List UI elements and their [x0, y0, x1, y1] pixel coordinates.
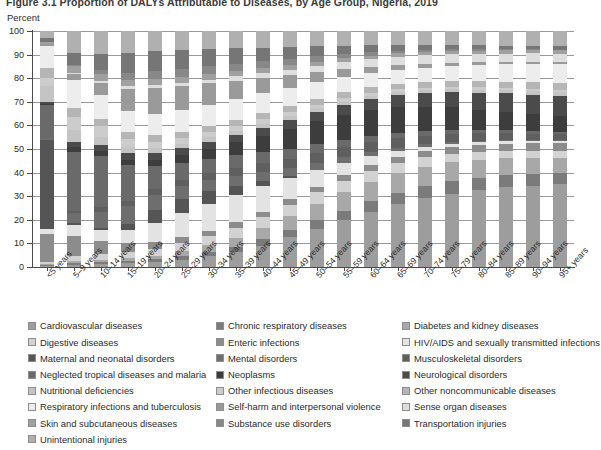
- bar-segment: [364, 59, 378, 67]
- bar-segment: [175, 148, 189, 155]
- legend-item[interactable]: Maternal and neonatal disorders: [28, 350, 218, 366]
- bar-40-44-years[interactable]: [256, 31, 270, 267]
- legend-swatch-icon: [402, 403, 410, 411]
- bar-segment: [229, 48, 243, 63]
- legend-item[interactable]: Cardiovascular diseases: [28, 318, 218, 334]
- bar-50-54-years[interactable]: [310, 31, 324, 267]
- legend-swatch-icon: [28, 403, 36, 411]
- bar-25-29-years[interactable]: [175, 31, 189, 267]
- bar-segment: [337, 211, 351, 221]
- legend-item[interactable]: Digestive diseases: [28, 334, 218, 350]
- bar-80-84-years[interactable]: [472, 31, 486, 267]
- bar-segment: [202, 105, 216, 127]
- bar-segment: [499, 112, 513, 130]
- bar-70-74-years[interactable]: [418, 31, 432, 267]
- bar-85-89-years[interactable]: [499, 31, 513, 267]
- legend-item[interactable]: Musculoskeletal disorders: [402, 350, 601, 366]
- bar-segment: [337, 192, 351, 210]
- legend-item[interactable]: Neoplasms: [216, 367, 402, 383]
- bar-75-79-years[interactable]: [445, 31, 459, 267]
- legend-item[interactable]: Neurological disorders: [402, 367, 601, 383]
- legend-item[interactable]: Substance use disorders: [216, 415, 402, 431]
- legend-item[interactable]: Diabetes and kidney diseases: [402, 318, 601, 334]
- legend-item-label: Substance use disorders: [228, 419, 331, 428]
- bar-segment: [148, 135, 162, 142]
- bar-segment: [364, 182, 378, 201]
- legend-item[interactable]: Skin and subcutaneous diseases: [28, 415, 218, 431]
- bar-segment: [229, 186, 243, 195]
- bar-segment: [202, 204, 216, 231]
- bar-45-49-years[interactable]: [283, 31, 297, 267]
- bar-segment: [94, 54, 108, 71]
- bar-20-24-years[interactable]: [148, 31, 162, 267]
- bar-10-14-years[interactable]: [94, 31, 108, 267]
- bar-segment: [229, 155, 243, 167]
- legend-item[interactable]: Unintentional injuries: [28, 431, 218, 447]
- bar-segment: [391, 107, 405, 133]
- bar-segment: [148, 31, 162, 51]
- bar-segment: [202, 149, 216, 159]
- gridline-40: [33, 173, 574, 174]
- legend-item[interactable]: Neglected tropical diseases and malaria: [28, 367, 218, 383]
- y-tick-mark-10: [27, 243, 32, 244]
- bar-segment: [94, 95, 108, 119]
- legend-item[interactable]: Nutritional deficiencies: [28, 383, 218, 399]
- bar-15-19-years[interactable]: [121, 31, 135, 267]
- bar-segment: [283, 31, 297, 47]
- bar-segment: [310, 220, 324, 229]
- legend-item[interactable]: Other noncommunicable diseases: [402, 383, 601, 399]
- bar-55-59-years[interactable]: [337, 31, 351, 267]
- legend-item[interactable]: Respiratory infections and tuberculosis: [28, 399, 218, 415]
- bar-segment: [499, 54, 513, 63]
- bar-segment: [472, 93, 486, 110]
- y-tick-mark-20: [27, 220, 32, 221]
- bar-30-34-years[interactable]: [202, 31, 216, 267]
- legend-item[interactable]: Sense organ diseases: [402, 399, 601, 415]
- bar-35-39-years[interactable]: [229, 31, 243, 267]
- bar-segment: [391, 138, 405, 147]
- y-tick-label-20: 20: [0, 215, 24, 225]
- bar-60-64-years[interactable]: [364, 31, 378, 267]
- legend-item-label: Digestive diseases: [40, 338, 118, 347]
- bar-segment: [526, 31, 540, 46]
- bar-segment: [553, 116, 567, 131]
- y-tick-mark-60: [27, 125, 32, 126]
- legend-item-label: Respiratory infections and tuberculosis: [40, 402, 201, 411]
- legend-item[interactable]: Mental disorders: [216, 350, 402, 366]
- gridline-90: [33, 55, 574, 56]
- legend-item[interactable]: Enteric infections: [216, 334, 402, 350]
- bar-90-94-years[interactable]: [526, 31, 540, 267]
- y-tick-label-40: 40: [0, 168, 24, 178]
- bar-65-69-years[interactable]: [391, 31, 405, 267]
- bar-segment: [94, 137, 108, 145]
- bar-segment: [526, 143, 540, 150]
- bar-segment: [283, 230, 297, 237]
- bar-segment: [364, 156, 378, 165]
- legend-swatch-icon: [28, 338, 36, 346]
- legend-item[interactable]: Transportation injuries: [402, 415, 601, 431]
- legend-item[interactable]: HIV/AIDS and sexually transmitted infect…: [402, 334, 601, 350]
- bar-segment: [418, 107, 432, 132]
- bar-segment: [67, 80, 81, 108]
- bar-segment: [526, 174, 540, 186]
- legend-item[interactable]: Other infectious diseases: [216, 383, 402, 399]
- legend-swatch-icon: [28, 371, 36, 379]
- bar-segment: [40, 46, 54, 68]
- bar-segment: [202, 159, 216, 173]
- legend-item-label: Neurological disorders: [414, 370, 507, 379]
- bar-segment: [283, 120, 297, 129]
- bar--5-years[interactable]: [40, 31, 54, 267]
- legend-item[interactable]: Chronic respiratory diseases: [216, 318, 402, 334]
- bar-segment: [121, 206, 135, 224]
- bar-segment: [94, 126, 108, 137]
- legend-item-label: Skin and subcutaneous diseases: [40, 419, 177, 428]
- legend-item[interactable]: Self-harm and interpersonal violence: [216, 399, 402, 415]
- bar-95-years[interactable]: [553, 31, 567, 267]
- bar-segment: [67, 31, 81, 53]
- bar-segment: [553, 96, 567, 117]
- bar-segment: [445, 181, 459, 193]
- legend-swatch-icon: [402, 419, 410, 427]
- bar-segment: [229, 176, 243, 186]
- bar-5-9-years[interactable]: [67, 31, 81, 267]
- bar-segment: [40, 234, 54, 261]
